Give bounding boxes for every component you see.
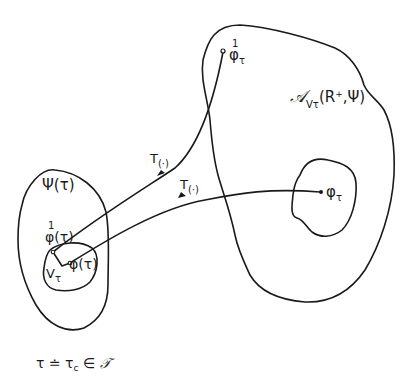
region-attainable-set: [202, 25, 394, 302]
label-args: (R: [319, 88, 335, 106]
label-text: φ: [326, 183, 336, 201]
label-sub: τ: [55, 273, 61, 284]
point-phi1-target: [221, 49, 225, 53]
point-phi-target: [319, 190, 323, 194]
label-text: T: [180, 177, 188, 192]
caption-set: 𝒯: [100, 355, 111, 371]
arrow-icon: [178, 192, 186, 198]
label-phi1-target: 1 φτ: [229, 48, 245, 63]
label-text: φ(τ): [45, 229, 74, 245]
trajectory-upper: [53, 52, 223, 252]
label-text: T: [150, 151, 158, 166]
label-sup: +: [335, 89, 343, 99]
label-text: 𝒜: [290, 86, 306, 106]
label-phi1-tau-fn: 1 φ(τ): [45, 230, 74, 244]
label-text: V: [46, 266, 55, 281]
label-phi-tau-fn: φ(τ): [69, 257, 98, 271]
label-tail: ,Ψ): [343, 88, 365, 106]
label-phi-target: φτ: [326, 185, 342, 200]
label-attainable-set: 𝒜Vτ(R+,Ψ): [290, 88, 365, 105]
label-sub: τ: [239, 55, 245, 66]
label-sub: (·): [188, 184, 199, 195]
caption-rhs: τ: [65, 355, 73, 371]
region-inner-right: [292, 159, 356, 236]
accent-dot-one: 1: [232, 39, 238, 49]
label-sub: τ: [336, 192, 342, 203]
caption-in: ∈: [78, 355, 99, 371]
label-trajectory-upper: T(·): [150, 152, 169, 165]
caption-eq: ≐: [44, 355, 65, 371]
caption: τ ≐ τc ∈ 𝒯: [36, 356, 111, 370]
caption-rhs-sub: c: [74, 363, 79, 373]
accent-dot-one: 1: [48, 221, 54, 231]
label-sub: (·): [158, 158, 169, 169]
label-trajectory-lower: T(·): [180, 178, 199, 191]
label-sub: Vτ: [306, 99, 319, 110]
point-phi1-tau: [51, 250, 55, 254]
diagram-canvas: [0, 0, 415, 391]
label-v-tau: Vτ: [46, 267, 61, 280]
v-tau-wedge: [53, 252, 70, 266]
label-psi-tau: Ψ(τ): [42, 178, 75, 193]
